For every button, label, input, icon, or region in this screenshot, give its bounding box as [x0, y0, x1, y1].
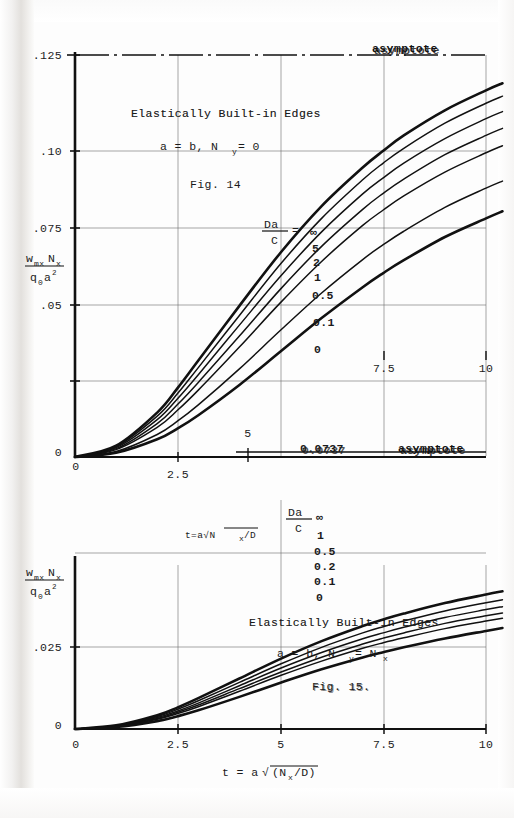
lower-condition-head: a = b, N	[277, 647, 335, 660]
lower-plot: .025 0 0 2.5 5 7.5 10 w mx N x q 0 a 2 D…	[25, 500, 502, 782]
lower-curve-label-inf: ∞	[316, 511, 323, 524]
upper-ylabel-a-sup: 2	[52, 269, 57, 277]
lower-ylabel-a-sup: 2	[52, 583, 57, 591]
lower-curve-label-1: 1	[317, 529, 324, 542]
upper-ylabel-n-sub: x	[56, 259, 61, 268]
upper-curves	[75, 83, 502, 457]
lower-xtick-10: 10	[479, 738, 494, 751]
lower-curve-labels: ∞ 1 0.5 0.2 0.1 0	[314, 511, 336, 604]
upper-xtick-10: 10	[479, 362, 494, 375]
upper-key-den: C	[271, 234, 278, 247]
scanned-page: .125 .10 .075 .05 0 7.5 10 2.5 0 asympto…	[0, 0, 514, 818]
upper-title-ghost: Elastically Built-in Edges	[131, 107, 321, 120]
upper-ylabel-q-sub: 0	[38, 278, 43, 287]
lower-ylabel-w: w	[26, 566, 33, 579]
upper-condition-tail: = 0	[238, 140, 260, 153]
lower-ylabel-w-sub: mx	[34, 573, 44, 582]
upper-ytick-0: .125	[33, 49, 62, 62]
lower-curve-label-0p5: 0.5	[314, 545, 336, 558]
upper-curve-label-0: 0	[314, 343, 321, 356]
lower-condition: a = b, N y = N x	[277, 647, 388, 663]
upper-plot: .125 .10 .075 .05 0 7.5 10 2.5 0 asympto…	[25, 42, 502, 543]
curve-5	[75, 96, 502, 457]
curve-inf	[75, 83, 502, 457]
lower-ylabel-n: N	[48, 566, 55, 579]
lower-curve-label-0: 0	[316, 591, 323, 604]
upper-ylabel-a: a	[44, 271, 51, 284]
upper-condition-sub: y	[232, 147, 237, 156]
upper-curve-label-2: 2	[313, 256, 320, 269]
lower-xlabel-head: t = a	[222, 766, 259, 779]
upper-curve-family-key: Da C =	[262, 218, 299, 247]
lower-curve-label-0p2: 0.2	[314, 560, 336, 573]
upper-y-ticks	[67, 55, 80, 381]
curve-1	[75, 128, 502, 457]
lower-xtick-7p5: 7.5	[373, 738, 395, 751]
upper-ytick-5: 0	[55, 446, 62, 459]
curve-0p1	[75, 181, 502, 457]
upper-xtick-0: 0	[72, 460, 79, 473]
lower-xtick-2p5: 2.5	[167, 738, 189, 751]
curve2-0p1	[75, 618, 502, 729]
lower-ylabel-q: q	[30, 585, 37, 598]
middle-asymptote-label-ghost: asymptote	[400, 444, 466, 457]
lower-curves	[75, 591, 502, 729]
upper-asymptote-label: asymptote asymptote	[372, 42, 440, 57]
upper-curve-label-inf: ∞	[310, 226, 317, 239]
middle-asymptote-value-ghost: 0.0737	[302, 444, 346, 457]
upper-curve-label-5: 5	[312, 242, 319, 255]
lower-key-den: C	[295, 522, 302, 535]
upper-key-eq: =	[292, 224, 299, 237]
curve-0	[75, 211, 502, 457]
lower-curve-family-key: Da C	[286, 506, 312, 535]
upper-xtick-7p5: 7.5	[373, 362, 395, 375]
upper-xtick-2p5: 2.5	[167, 468, 189, 481]
lower-xtick-5: 5	[277, 738, 284, 751]
upper-key-num: Da	[264, 218, 279, 231]
lower-ylabel-a: a	[44, 585, 51, 598]
upper-xlabel: t=a√N x /D	[185, 528, 258, 543]
lower-ytick-0: 0	[55, 719, 62, 732]
upper-ytick-3: .05	[40, 299, 62, 312]
figure-canvas: .125 .10 .075 .05 0 7.5 10 2.5 0 asympto…	[0, 0, 514, 818]
upper-xlabel-tail: /D	[244, 530, 256, 541]
curve-2	[75, 112, 502, 457]
upper-ylabel-n: N	[48, 252, 55, 265]
lower-xlabel: t = a √ (N x /D)	[222, 766, 318, 782]
lower-ylabel-q-sub: 0	[38, 592, 43, 601]
lower-title-ghost: Elastically Built-in Edges	[249, 616, 439, 629]
upper-ylabel: w mx N x q 0 a 2	[25, 252, 64, 287]
lower-xlabel-body: (N	[272, 766, 287, 779]
upper-figure-label: Fig. 14	[190, 178, 241, 191]
lower-condition-sub: y	[349, 654, 354, 663]
lower-xtick-0: 0	[72, 738, 79, 751]
upper-ytick-2: .075	[33, 222, 62, 235]
lower-ylabel-n-sub: x	[56, 573, 61, 582]
upper-ylabel-w: w	[26, 252, 33, 265]
upper-ylabel-w-sub: mx	[34, 259, 44, 268]
upper-condition: a = b, N y = 0	[160, 140, 260, 156]
upper-curve-label-0p5: 0.5	[312, 289, 334, 302]
curve-0p5	[75, 146, 502, 457]
upper-ytick-1: .10	[40, 145, 62, 158]
lower-key-num: Da	[288, 506, 303, 519]
lower-condition-sub2: x	[383, 654, 388, 663]
lower-xlabel-tail: /D)	[294, 766, 316, 779]
upper-condition-head: a = b, N	[160, 140, 218, 153]
lower-curve-label-0p1: 0.1	[314, 575, 336, 588]
lower-ylabel: w mx N x q 0 a 2	[25, 566, 64, 601]
upper-curve-label-0p1: 0.1	[313, 316, 335, 329]
upper-asymptote-text-ghost: asymptote	[374, 44, 440, 57]
lower-ytick-0p025: .025	[33, 641, 62, 654]
upper-ylabel-q: q	[30, 271, 37, 284]
lower-condition-mid: = N	[355, 647, 377, 660]
lower-gridlines	[75, 500, 486, 728]
upper-xlabel-text: t=a√N	[185, 530, 216, 541]
curve2-0	[75, 628, 502, 729]
lower-figure-label-ghost: Fig. 15.	[313, 681, 371, 694]
lower-xlabel-sub: x	[288, 773, 293, 782]
upper-curve-label-1: 1	[314, 271, 321, 284]
middle-xtick-5: 5	[244, 427, 251, 440]
lower-xlabel-radical: √	[262, 766, 269, 779]
